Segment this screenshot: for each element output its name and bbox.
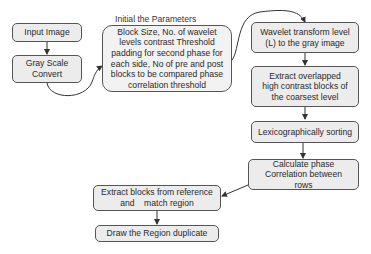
node-extract-blocks: Extract blocks from reference and match …	[93, 185, 221, 211]
parameters-heading: Initial the Parameters	[115, 14, 196, 24]
node-extract-overlapped: Extract overlapped high contrast blocks …	[251, 66, 359, 107]
node-input-image: Input Image	[12, 23, 82, 42]
node-wavelet-transform: Wavelet transform level (L) to the gray …	[251, 22, 359, 53]
node-phase-correlation: Calculate phase Correlation between rows	[248, 159, 359, 190]
node-parameters: Block Size, No. of wavelet levels contra…	[102, 25, 232, 92]
arrow-phase-to-extract-blocks	[222, 185, 248, 196]
node-lexicographic-sort: Lexicographically sorting	[251, 121, 359, 143]
node-gray-scale-convert: Gray Scale Convert	[12, 55, 82, 83]
node-draw-region: Draw the Region duplicate	[95, 225, 219, 242]
